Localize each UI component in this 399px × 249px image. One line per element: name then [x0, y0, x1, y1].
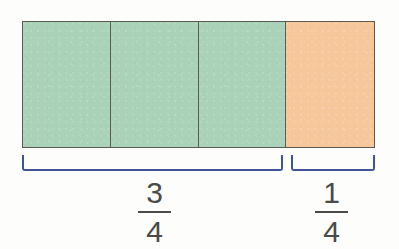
fraction-label-three-quarters: 3 4 — [138, 178, 171, 247]
bar-part-2[interactable] — [111, 22, 199, 147]
one-quarter-denominator: 4 — [323, 217, 340, 247]
bar-part-4[interactable] — [286, 22, 374, 147]
right-bracket — [291, 155, 375, 171]
left-bracket — [22, 155, 283, 171]
one-quarter-numerator: 1 — [323, 178, 340, 208]
three-quarters-denominator: 4 — [146, 217, 163, 247]
fraction-label-one-quarter: 1 4 — [315, 178, 348, 247]
three-quarters-numerator: 3 — [146, 178, 163, 208]
three-quarters-fraction-bar-line — [138, 211, 171, 213]
one-quarter-fraction-bar-line — [315, 211, 348, 213]
fraction-bar — [22, 21, 375, 148]
fraction-bar-figure: 3 4 1 4 — [0, 0, 399, 249]
bar-part-1[interactable] — [23, 22, 111, 147]
bar-part-3[interactable] — [199, 22, 287, 147]
